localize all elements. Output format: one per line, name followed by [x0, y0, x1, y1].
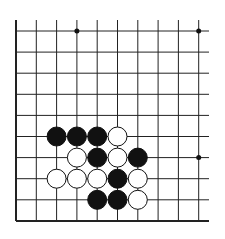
black-stone[interactable]: [108, 169, 127, 188]
black-stone[interactable]: [67, 127, 86, 146]
board-grid: [16, 20, 209, 221]
white-stone[interactable]: [67, 169, 86, 188]
white-stone[interactable]: [47, 169, 66, 188]
white-stone[interactable]: [108, 127, 127, 146]
star-point: [196, 155, 201, 160]
black-stone[interactable]: [88, 190, 107, 209]
star-point: [196, 29, 201, 34]
go-board: [0, 0, 225, 239]
white-stone[interactable]: [67, 148, 86, 167]
black-stone[interactable]: [47, 127, 66, 146]
white-stone[interactable]: [88, 169, 107, 188]
white-stone[interactable]: [108, 148, 127, 167]
black-stone[interactable]: [108, 190, 127, 209]
white-stone[interactable]: [128, 169, 147, 188]
black-stone[interactable]: [88, 148, 107, 167]
white-stone[interactable]: [128, 190, 147, 209]
black-stone[interactable]: [88, 127, 107, 146]
star-point: [74, 29, 79, 34]
black-stone[interactable]: [128, 148, 147, 167]
